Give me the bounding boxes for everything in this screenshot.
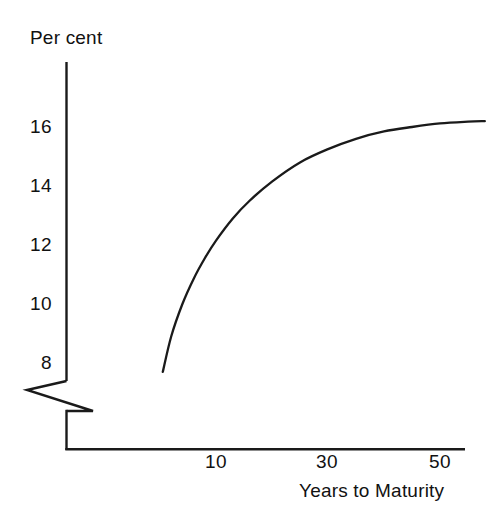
axis-break-zigzag (27, 381, 93, 411)
y-axis-title: Per cent (30, 28, 102, 47)
yield-curve-line (163, 121, 485, 372)
y-tick-label-16: 16 (6, 117, 52, 136)
y-tick-label-10: 10 (6, 294, 52, 313)
x-tick-label-30: 30 (304, 452, 350, 471)
y-tick-label-12: 12 (6, 235, 52, 254)
chart-canvas (0, 0, 491, 525)
x-tick-label-50: 50 (417, 452, 463, 471)
y-tick-label-8: 8 (6, 353, 52, 372)
yield-curve-figure: Per cent 16 14 12 10 8 10 30 50 Years to… (0, 0, 491, 525)
x-tick-label-10: 10 (193, 452, 239, 471)
x-axis-title: Years to Maturity (299, 481, 444, 500)
y-tick-label-14: 14 (6, 176, 52, 195)
